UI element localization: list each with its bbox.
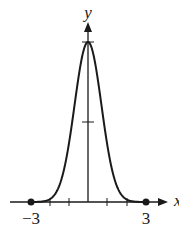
- bell-curve-chart: y x −3 3: [0, 0, 179, 233]
- tick-label-neg3: −3: [22, 209, 40, 228]
- tick-label-pos3: 3: [142, 209, 151, 228]
- point-neg3: [28, 199, 35, 206]
- y-axis-label: y: [82, 3, 92, 22]
- y-axis-arrow-icon: [84, 22, 92, 32]
- x-axis-arrow-icon: [158, 198, 168, 206]
- x-axis-label: x: [173, 191, 179, 210]
- point-pos3: [143, 199, 150, 206]
